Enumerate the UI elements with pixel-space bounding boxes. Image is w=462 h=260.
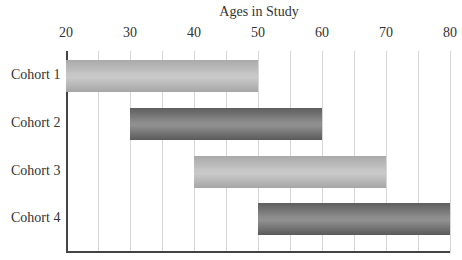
axis-title-text: Ages in Study	[219, 4, 298, 19]
category-label: Cohort 3	[11, 163, 60, 179]
plot-area	[66, 51, 450, 253]
category-label: Cohort 4	[11, 210, 60, 226]
axis-title: Ages in Study	[0, 4, 462, 20]
x-axis-line	[66, 251, 450, 253]
range-bar-3	[194, 156, 386, 188]
range-bar-2	[130, 108, 322, 140]
x-tick-label: 30	[123, 25, 137, 41]
x-tick-label: 20	[59, 25, 73, 41]
x-tick-label: 60	[315, 25, 329, 41]
x-tick-label: 80	[443, 25, 457, 41]
category-label: Cohort 2	[11, 115, 60, 131]
x-tick-label: 40	[187, 25, 201, 41]
x-tick-label: 50	[251, 25, 265, 41]
range-bar-1	[66, 60, 258, 92]
x-tick-label: 70	[379, 25, 393, 41]
range-bar-4	[258, 203, 450, 235]
category-label: Cohort 1	[11, 67, 60, 83]
gridline	[450, 51, 451, 253]
